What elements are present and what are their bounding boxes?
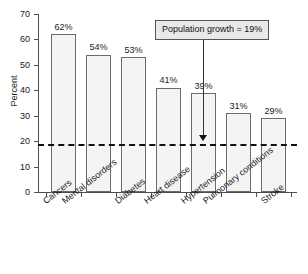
y-tick-label-0: 0 [4,188,30,197]
bar-value-cancers: 62% [51,23,76,32]
bar-value-stroke: 29% [261,107,286,116]
annotation-arrowhead-icon [199,135,207,141]
annotation-box-population-growth: Population growth = 19% [155,20,269,40]
bar-cancers [51,34,76,192]
bar-value-mental-disorders: 54% [86,43,111,52]
y-tick-label-10: 10 [4,163,30,172]
x-tick-7 [291,192,292,197]
y-tick-label-70: 70 [4,10,30,19]
bar-diabetes [121,57,146,192]
bar-value-pulmonary-conditions: 31% [226,102,251,111]
y-tick-label-20: 20 [4,137,30,146]
bar-chart: Percent 0 10 20 30 40 50 60 70 62% [0,0,308,274]
y-tick-20 [34,141,39,142]
y-tick-label-60: 60 [4,35,30,44]
reference-line-population-growth [38,144,297,146]
y-tick-70 [34,14,39,15]
y-tick-10 [34,167,39,168]
y-tick-label-50: 50 [4,61,30,70]
y-tick-30 [34,116,39,117]
y-tick-label-40: 40 [4,86,30,95]
x-tick-6 [256,192,257,197]
y-tick-0 [34,192,39,193]
y-tick-label-30: 30 [4,112,30,121]
y-tick-40 [34,90,39,91]
y-tick-50 [34,65,39,66]
bar-value-heart-disease: 41% [156,76,181,85]
annotation-leader-line [203,36,204,136]
y-tick-60 [34,39,39,40]
bar-value-diabetes: 53% [121,46,146,55]
